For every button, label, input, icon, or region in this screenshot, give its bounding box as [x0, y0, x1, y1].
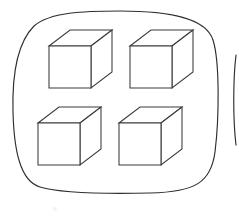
figure-canvas: Four cubes grouped inside one enclosure — [0, 0, 239, 219]
cube-top-left[interactable] — [49, 30, 112, 88]
cube-bottom-left[interactable] — [38, 107, 101, 165]
cube-bottom-right[interactable] — [119, 107, 182, 165]
grouping-diagram: Four cubes grouped inside one enclosure — [0, 0, 239, 219]
cube-front-face — [130, 46, 172, 88]
faint-smudge-artifact — [53, 207, 57, 211]
cube-front-face — [49, 46, 91, 88]
enclosure-secondary-group-partial[interactable] — [234, 55, 236, 145]
cube-front-face — [38, 123, 80, 165]
cube-top-right[interactable] — [130, 30, 193, 88]
cube-front-face — [119, 123, 161, 165]
